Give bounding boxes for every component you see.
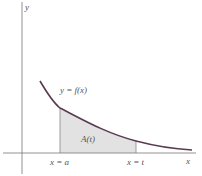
diagram-svg: y x y = f(x) A(t) x = a x = t: [0, 0, 202, 176]
x-axis-label: x: [185, 156, 190, 166]
tick-label-t: x = t: [126, 157, 145, 167]
y-axis-label: y: [24, 2, 29, 12]
curve-label: y = f(x): [59, 85, 87, 95]
tick-label-a: x = a: [49, 157, 70, 167]
area-label: A(t): [80, 134, 95, 144]
area-under-curve-diagram: y x y = f(x) A(t) x = a x = t: [0, 0, 202, 176]
